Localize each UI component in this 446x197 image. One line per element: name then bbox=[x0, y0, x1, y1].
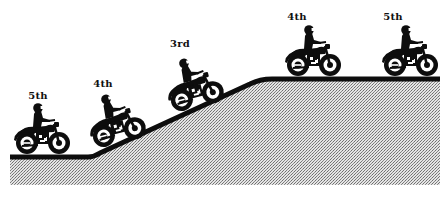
motorcycle-rider-icon bbox=[382, 25, 438, 76]
hill-scene bbox=[0, 0, 446, 197]
gear-label-rider-1: 5th bbox=[28, 90, 47, 101]
motorcycle-rider-icon bbox=[14, 103, 70, 154]
gear-label-rider-5: 5th bbox=[383, 11, 402, 22]
gear-label-rider-3: 3rd bbox=[170, 38, 190, 49]
motorcycle-rider-icon bbox=[285, 25, 341, 76]
gear-label-rider-2: 4th bbox=[93, 78, 112, 89]
gear-label-rider-4: 4th bbox=[287, 11, 306, 22]
gear-hill-diagram: 5th 4th 3rd 4th 5th bbox=[0, 0, 446, 197]
